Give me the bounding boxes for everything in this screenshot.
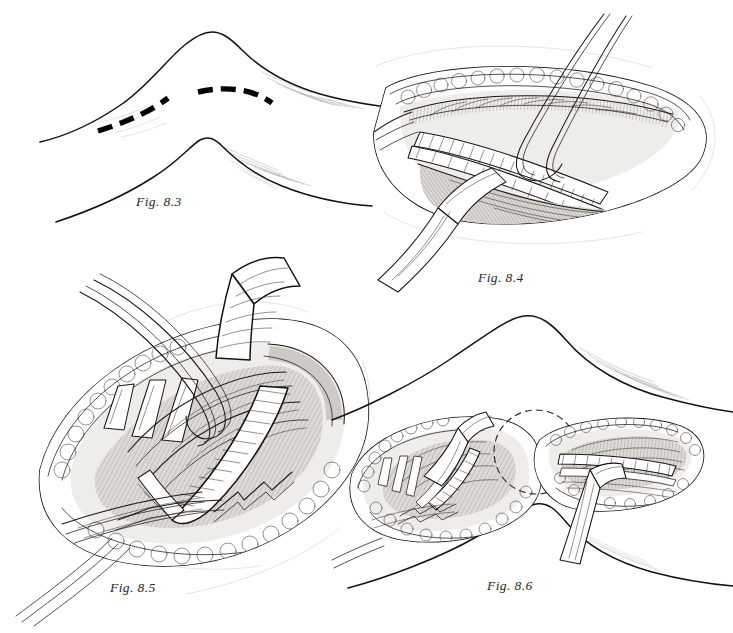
leg-contour-86 bbox=[332, 316, 733, 420]
fat-lobules-lower-84 bbox=[420, 192, 704, 246]
vessel-loop-anterior-85 bbox=[94, 274, 231, 439]
vessel-loop-posterior-85 bbox=[80, 286, 216, 446]
deep-tendon-85 bbox=[62, 492, 206, 544]
surgical-illustration-artwork bbox=[0, 0, 733, 633]
ringed-vessel-85 bbox=[164, 386, 288, 524]
retractor-blade-85 bbox=[216, 258, 300, 360]
figure-caption-8-5: Fig. 8.5 bbox=[110, 580, 156, 596]
figure-caption-8-3: Fig. 8.3 bbox=[136, 194, 182, 210]
retractor-blade-86-lower bbox=[560, 463, 626, 564]
feather-strokes-upper bbox=[262, 72, 363, 109]
incision-line-below-knee bbox=[198, 89, 272, 103]
fascia-flaps-86-left bbox=[378, 456, 422, 496]
figure-plate: Fig. 8.3 Fig. 8.4 Fig. 8.5 Fig. 8.6 bbox=[0, 0, 733, 633]
muscle-bundles-85 bbox=[128, 372, 308, 496]
above-knee-wound-86 bbox=[350, 417, 542, 542]
fat-lobules-86-right bbox=[551, 417, 701, 510]
fig-8-6-artwork bbox=[332, 316, 733, 588]
feather-strokes-lower bbox=[226, 148, 311, 186]
ringed-vessel-86-left bbox=[428, 448, 480, 510]
figure-caption-8-6: Fig. 8.6 bbox=[487, 578, 533, 594]
wound-edge-85 bbox=[39, 319, 368, 566]
ringed-vessel-86-right bbox=[558, 454, 676, 477]
below-knee-wound-86 bbox=[534, 418, 703, 511]
leg-contour-lower bbox=[56, 138, 372, 222]
retractor-blade-86-upper bbox=[424, 412, 494, 486]
wound-edge-84 bbox=[374, 67, 706, 224]
leg-contour-lower-86 bbox=[348, 504, 733, 588]
companion-vessel-84 bbox=[408, 146, 604, 220]
vessel-loop-posterior-84 bbox=[546, 16, 632, 182]
incision-line-above-knee bbox=[98, 98, 168, 131]
leg-contour-upper bbox=[40, 32, 420, 142]
limb-halo-84 bbox=[376, 46, 715, 244]
fascia-zigzag-85 bbox=[116, 472, 294, 530]
suture-lines-86 bbox=[332, 538, 384, 568]
companion-vessel-86-left bbox=[416, 450, 462, 508]
limb-halo-85 bbox=[60, 302, 370, 594]
feather-strokes-86 bbox=[580, 348, 689, 400]
fig-8-4-artwork bbox=[374, 14, 720, 292]
fig-8-5-artwork bbox=[16, 258, 380, 626]
fat-lobules-bottom-85 bbox=[62, 456, 360, 564]
figure-caption-8-4: Fig. 8.4 bbox=[478, 270, 524, 286]
tunnel-route-dashed-circle bbox=[494, 410, 578, 494]
fascial-flap-edges-85 bbox=[104, 378, 198, 442]
vessel-distal-85 bbox=[138, 470, 184, 520]
fat-lobules-left-85 bbox=[48, 332, 246, 480]
fat-lobules-86-left bbox=[358, 414, 532, 543]
fat-lobules-upper-84 bbox=[390, 68, 690, 132]
fig-8-3-artwork bbox=[40, 32, 420, 222]
vessel-loop-anterior-84 bbox=[516, 14, 610, 181]
ringed-vessel-84 bbox=[414, 132, 608, 212]
